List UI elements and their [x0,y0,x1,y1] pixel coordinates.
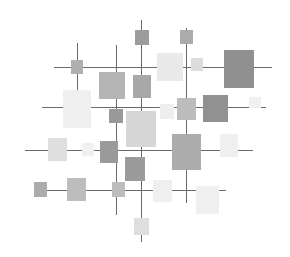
gray-square [100,141,118,163]
gray-square [112,182,125,197]
gray-square [172,134,201,170]
gray-square [180,30,193,44]
gray-square [134,218,149,235]
gray-square [63,90,91,128]
gray-square [220,134,238,157]
gray-square [125,157,145,181]
gray-square [109,109,123,123]
gray-square [153,180,172,202]
gray-square [71,60,83,74]
abstract-grid-artwork [0,0,290,257]
gray-square [249,97,261,108]
gray-square [133,75,151,98]
gray-square [203,95,228,122]
gray-square [82,143,94,156]
gray-square [126,111,156,147]
gray-square [99,72,125,99]
gray-square [191,58,203,71]
gray-square [48,138,67,161]
gray-square [196,186,219,214]
gray-square [67,178,86,201]
gray-square [177,98,196,120]
gray-square [135,30,149,45]
gray-square [157,53,183,81]
gray-square [224,50,254,88]
gray-square [34,182,47,197]
gray-square [160,104,174,119]
